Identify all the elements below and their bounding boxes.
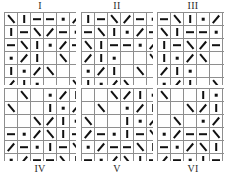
grid-row bbox=[82, 65, 154, 78]
grid-cell-fwd bbox=[31, 128, 44, 141]
fwd-glyph-icon bbox=[44, 26, 56, 38]
back-glyph-icon bbox=[44, 128, 56, 140]
back-glyph-icon bbox=[210, 128, 222, 140]
fwd-glyph-icon bbox=[158, 65, 170, 77]
grid-cell-horz bbox=[134, 13, 147, 26]
grid-cell-back bbox=[5, 102, 18, 115]
grid-cell-horz bbox=[70, 128, 77, 141]
grid-cell-blank bbox=[184, 115, 197, 128]
vert-glyph-icon bbox=[18, 78, 30, 85]
horz-glyph-icon bbox=[184, 26, 196, 38]
grid-row bbox=[5, 39, 77, 52]
back-glyph-icon bbox=[184, 102, 196, 114]
horz-glyph-icon bbox=[44, 13, 56, 25]
grid-cell-horz bbox=[31, 154, 44, 162]
grid-cell-fwd bbox=[134, 26, 147, 39]
fwd-glyph-icon bbox=[5, 141, 17, 153]
grid-row bbox=[5, 89, 77, 102]
grid-cell-vert bbox=[134, 89, 147, 102]
grid-iii bbox=[157, 12, 224, 85]
fwd-glyph-icon bbox=[197, 102, 209, 114]
vert-glyph-icon bbox=[82, 78, 94, 85]
grid-cell-fwd bbox=[70, 102, 77, 115]
grid-cell-fwd bbox=[82, 52, 95, 65]
dot-glyph-icon bbox=[57, 13, 69, 25]
grid-cell-horz bbox=[31, 13, 44, 26]
grid-row bbox=[82, 78, 154, 86]
grid-row bbox=[158, 141, 225, 154]
grid-cell-fwd bbox=[44, 115, 57, 128]
grid-cell-vert bbox=[5, 26, 18, 39]
dot-glyph-icon bbox=[197, 13, 209, 25]
dot-glyph-icon bbox=[31, 141, 43, 153]
grid-v bbox=[81, 88, 153, 161]
grid-cell-dot bbox=[82, 141, 95, 154]
grid-clip-iv bbox=[4, 88, 76, 161]
grid-cell-dot bbox=[147, 13, 154, 26]
grid-cell-dot bbox=[31, 78, 44, 86]
fwd-glyph-icon bbox=[5, 78, 17, 85]
vert-glyph-icon bbox=[57, 115, 69, 127]
grid-row bbox=[5, 52, 77, 65]
grid-row bbox=[158, 89, 225, 102]
fwd-glyph-icon bbox=[95, 141, 107, 153]
vert-glyph-icon bbox=[184, 13, 196, 25]
dot-glyph-icon bbox=[121, 102, 133, 114]
dot-glyph-icon bbox=[108, 52, 120, 64]
dot-glyph-icon bbox=[210, 89, 222, 101]
grid-cell-back bbox=[44, 65, 57, 78]
fwd-glyph-icon bbox=[121, 89, 133, 101]
horz-glyph-icon bbox=[18, 141, 30, 153]
grid-cell-fwd bbox=[210, 115, 223, 128]
grid-row bbox=[5, 102, 77, 115]
grid-cell-fwd bbox=[184, 141, 197, 154]
grid-cell-vert bbox=[5, 65, 18, 78]
vert-glyph-icon bbox=[57, 128, 69, 140]
grid-cell-horz bbox=[44, 13, 57, 26]
grid-cell-blank bbox=[57, 78, 70, 86]
grid-cell-horz bbox=[184, 26, 197, 39]
dot-glyph-icon bbox=[18, 65, 30, 77]
grid-cell-blank bbox=[18, 102, 31, 115]
blank-glyph-icon bbox=[147, 78, 153, 85]
grid-cell-back bbox=[171, 115, 184, 128]
horz-glyph-icon bbox=[57, 141, 69, 153]
horz-glyph-icon bbox=[57, 26, 69, 38]
horz-glyph-icon bbox=[134, 128, 146, 140]
horz-glyph-icon bbox=[197, 128, 209, 140]
grid-cell-fwd bbox=[57, 39, 70, 52]
fwd-glyph-icon bbox=[57, 39, 69, 51]
grid-cell-horz bbox=[147, 154, 154, 162]
fwd-glyph-icon bbox=[82, 128, 94, 140]
blank-glyph-icon bbox=[108, 102, 120, 114]
panel-label-iv: IV bbox=[4, 163, 76, 174]
horz-glyph-icon bbox=[210, 154, 222, 161]
dot-glyph-icon bbox=[223, 102, 224, 114]
grid-cell-back bbox=[210, 78, 223, 86]
grid-cell-dot bbox=[171, 141, 184, 154]
vert-glyph-icon bbox=[134, 89, 146, 101]
grid-cell-horz bbox=[82, 26, 95, 39]
grid-cell-horz bbox=[18, 141, 31, 154]
grid-cell-fwd bbox=[171, 78, 184, 86]
horz-glyph-icon bbox=[44, 154, 56, 161]
dot-glyph-icon bbox=[171, 141, 183, 153]
grid-row bbox=[158, 52, 225, 65]
grid-cell-horz bbox=[197, 26, 210, 39]
grid-cell-back bbox=[95, 26, 108, 39]
grid-cell-dot bbox=[210, 89, 223, 102]
dot-glyph-icon bbox=[210, 26, 222, 38]
fwd-glyph-icon bbox=[18, 154, 30, 161]
grid-cell-fwd bbox=[70, 13, 77, 26]
dot-glyph-icon bbox=[70, 115, 76, 127]
grid-cell-dot bbox=[223, 39, 225, 52]
horz-glyph-icon bbox=[108, 39, 120, 51]
vert-glyph-icon bbox=[171, 26, 183, 38]
grid-cell-vert bbox=[18, 78, 31, 86]
grid-cell-horz bbox=[223, 13, 225, 26]
grid-cell-fwd bbox=[158, 65, 171, 78]
back-glyph-icon bbox=[95, 102, 107, 114]
grid-cell-blank bbox=[121, 52, 134, 65]
grid-cell-dot bbox=[158, 128, 171, 141]
grid-cell-back bbox=[158, 89, 171, 102]
